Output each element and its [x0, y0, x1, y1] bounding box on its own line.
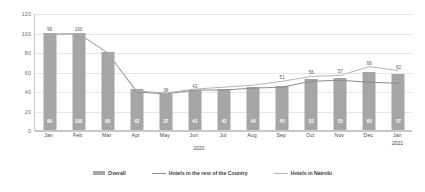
y-axis-tick-100: 100	[22, 31, 31, 37]
y-axis-tick-120: 120	[22, 11, 31, 17]
line-point-label: 62	[396, 65, 401, 70]
chart-legend: Overall Hotels in the rest of the Countr…	[0, 170, 425, 176]
x-axis-tick-1: Feb	[73, 132, 82, 138]
x-axis-tick-10: Nov	[335, 132, 345, 138]
y-axis-tick-60: 60	[25, 70, 31, 76]
legend-item-nairobi[interactable]: Hotels in Nairobi	[274, 170, 332, 176]
year-2020-text: 2020	[193, 145, 204, 151]
x-axis-tick-9: Oct	[306, 132, 314, 138]
line-point-label: 56	[309, 70, 314, 75]
chart-container: 020406080100120 999910010080423741424445…	[0, 0, 425, 192]
x-axis-tick-8: Sep	[276, 132, 286, 138]
x-axis-tick-5: Jun	[190, 132, 199, 138]
line-point-label: 38	[163, 88, 168, 93]
legend-item-rest-of-country[interactable]: Hotels in the rest of the Country	[152, 170, 248, 176]
x-axis-tick-12: Jan	[393, 132, 402, 138]
legend-line-swatch-light-icon	[274, 173, 288, 174]
line-point-label: 66	[367, 61, 372, 66]
x-axis-tick-3: Apr	[132, 132, 140, 138]
legend-bar-swatch-icon	[93, 171, 105, 175]
axis-group-label-2020: 2020	[34, 145, 412, 151]
plot-area: 020406080100120 999910010080423741424445…	[34, 14, 412, 131]
legend-label-rest-of-country: Hotels in the rest of the Country	[169, 170, 248, 176]
line-series-layer	[35, 14, 413, 131]
x-axis-tick-7: Aug	[247, 132, 257, 138]
x-axis-tick-4: May	[160, 132, 170, 138]
x-axis: JanFebMarAprMayJunJulAugSepOctNovDecJan2…	[34, 132, 412, 146]
x-axis-tick-6: Jul	[220, 132, 227, 138]
line-point-label: 57	[338, 69, 343, 74]
x-axis-tick-2: Mar	[102, 132, 111, 138]
y-axis-tick-20: 20	[25, 109, 31, 115]
line-point-label: 51	[280, 75, 285, 80]
legend-label-nairobi: Hotels in Nairobi	[291, 170, 332, 176]
legend-label-overall: Overall	[108, 170, 126, 176]
line-point-label: 42	[192, 84, 197, 89]
line-hotels-in-the-rest-of-the-country	[50, 34, 399, 94]
y-axis-tick-40: 40	[25, 89, 31, 95]
legend-line-swatch-icon	[152, 173, 166, 174]
y-axis-tick-80: 80	[25, 50, 31, 56]
x-axis-tick-0: Jan	[44, 132, 53, 138]
x-axis-tick-11: Dec	[364, 132, 374, 138]
legend-item-overall[interactable]: Overall	[93, 170, 126, 176]
y-axis-tick-0: 0	[28, 128, 31, 134]
line-hotels-in-nairobi	[50, 34, 399, 93]
